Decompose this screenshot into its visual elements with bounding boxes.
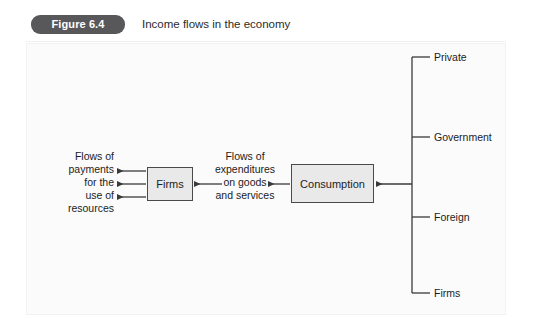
header-divider	[26, 41, 506, 42]
flow-label-payments: Flows of payments for the use of resourc…	[48, 150, 114, 215]
node-consumption: Consumption	[291, 164, 374, 203]
node-firms: Firms	[147, 167, 193, 201]
node-firms-label: Firms	[156, 178, 184, 190]
figure-container: Figure 6.4 Income flows in the economy	[0, 0, 533, 328]
figure-title: Income flows in the economy	[142, 15, 290, 34]
branch-label-firms: Firms	[434, 287, 460, 299]
branch-label-private: Private	[434, 51, 467, 63]
figure-number-label: Figure 6.4	[31, 15, 125, 34]
figure-number-badge: Figure 6.4	[31, 15, 125, 34]
node-consumption-label: Consumption	[300, 178, 365, 190]
figure-header: Figure 6.4 Income flows in the economy	[0, 0, 533, 42]
branch-label-government: Government	[434, 131, 492, 143]
flow-label-expenditures: Flows of expenditures on goods and servi…	[205, 150, 285, 202]
branch-label-foreign: Foreign	[434, 211, 470, 223]
